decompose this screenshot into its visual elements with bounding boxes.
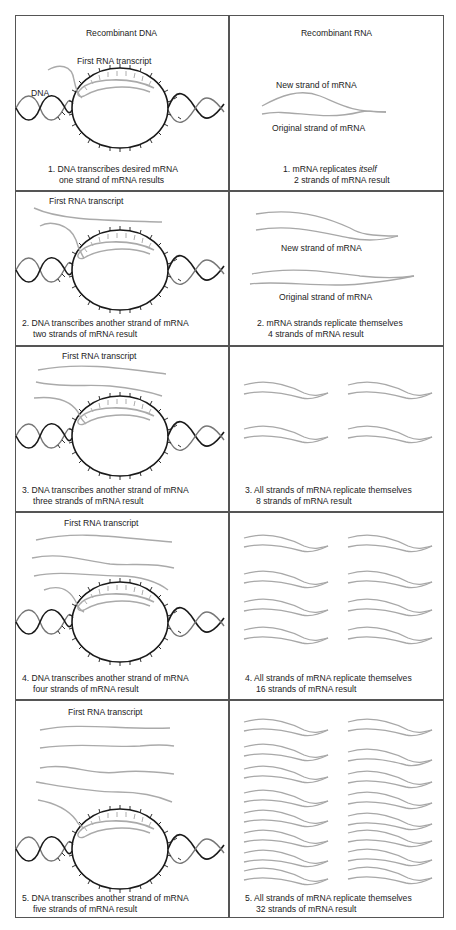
rna-pair [244,382,328,398]
dna-caption-2: 2. DNA transcribes another strand of mRN… [22,318,189,339]
dna-caption-5: 5. DNA transcribes another strand of mRN… [22,893,189,914]
dna-caption-1: 1. DNA transcribes desired mRNA one stra… [48,164,178,185]
caption-line: 3. All strands of mRNA replicate themsel… [245,485,412,495]
dna-bubble-row-4 [16,535,224,666]
rna-pair [348,382,432,398]
caption-line: 1. mRNA replicates itself [283,164,377,174]
label-first-rna-transcript: First RNA transcript [49,196,124,207]
rna-caption-2: 2. mRNA strands replicate themselves 4 s… [257,318,403,339]
caption-line: 2. DNA transcribes another strand of mRN… [22,318,189,328]
caption-line: three strands of mRNA result [22,496,189,507]
rna-pair [348,426,432,442]
label-first-rna-transcript: First RNA transcript [64,518,139,529]
caption-line: five strands of mRNA result [22,904,189,915]
dna-caption-4: 4. DNA transcribes another strand of mRN… [22,673,189,694]
caption-line: 8 strands of mRNA result [245,496,412,507]
diagram-drawings [0,0,456,930]
dna-caption-3: 3. DNA transcribes another strand of mRN… [22,485,189,506]
rna-pair [244,426,328,442]
caption-line: 1. DNA transcribes desired mRNA [48,164,178,174]
rna-caption-1: 1. mRNA replicates itself 2 strands of m… [283,164,390,185]
label-original-strand: Original strand of mRNA [279,292,372,303]
caption-line: four strands of mRNA result [22,684,189,695]
caption-line: 32 strands of mRNA result [245,904,412,915]
caption-line: 16 strands of mRNA result [245,684,412,695]
rna-caption-4: 4. All strands of mRNA replicate themsel… [245,673,412,694]
caption-italic: itself [359,164,377,174]
label-original-strand: Original strand of mRNA [272,123,365,134]
caption-line: 5. DNA transcribes another strand of mRN… [22,893,189,903]
label-first-rna-transcript: First RNA transcript [77,56,152,67]
rna-caption-3: 3. All strands of mRNA replicate themsel… [245,485,412,506]
caption-line: 4. DNA transcribes another strand of mRN… [22,673,189,683]
label-dna: DNA [31,88,49,99]
caption-prefix: 1. mRNA replicates [283,164,359,174]
caption-line: 2 strands of mRNA result [283,175,390,186]
dna-bubble-row-1 [16,64,224,152]
rna-pair-row-1 [262,93,386,116]
caption-line: 5. All strands of mRNA replicate themsel… [245,893,412,903]
caption-line: 4 strands of mRNA result [257,329,403,340]
caption-line: 4. All strands of mRNA replicate themsel… [245,673,412,683]
caption-line: one strand of mRNA results [48,175,178,186]
label-first-rna-transcript: First RNA transcript [62,351,137,362]
dna-bubble-row-2 [16,208,224,314]
label-first-rna-transcript: First RNA transcript [68,707,143,718]
rna-caption-5: 5. All strands of mRNA replicate themsel… [245,893,412,914]
caption-line: two strands of mRNA result [22,329,189,340]
label-new-strand: New strand of mRNA [281,243,362,254]
dna-bubble-row-3 [16,366,224,480]
dna-bubble-row-5 [16,726,224,893]
label-new-strand: New strand of mRNA [276,80,357,91]
caption-line: 3. DNA transcribes another strand of mRN… [22,485,189,495]
caption-line: 2. mRNA strands replicate themselves [257,318,403,328]
